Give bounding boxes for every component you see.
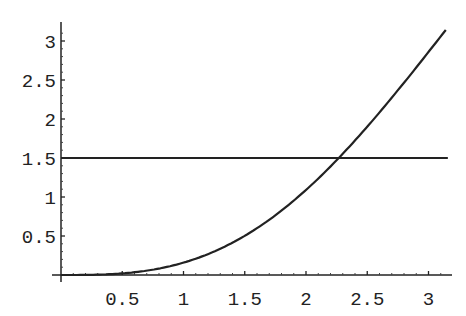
y-tick-label: 0.5 [22, 227, 56, 249]
minor-ticks [61, 33, 441, 275]
chart: 0.511.522.53 0.511.522.53 [0, 0, 466, 316]
x-tick-label: 3 [423, 289, 434, 311]
x-tick-label: 2 [300, 289, 311, 311]
y-tick-labels: 0.511.522.53 [22, 32, 56, 249]
axes [52, 22, 452, 282]
curve-series [61, 30, 446, 275]
y-tick-label: 2.5 [22, 71, 56, 93]
y-tick-label: 2 [45, 110, 56, 132]
x-tick-label: 2.5 [350, 289, 384, 311]
x-tick-label: 1.5 [228, 289, 262, 311]
y-tick-label: 1 [45, 188, 56, 210]
y-tick-label: 3 [45, 32, 56, 54]
x-tick-label: 0.5 [105, 289, 139, 311]
x-tick-labels: 0.511.522.53 [105, 289, 434, 311]
x-tick-label: 1 [178, 289, 189, 311]
y-tick-label: 1.5 [22, 149, 56, 171]
